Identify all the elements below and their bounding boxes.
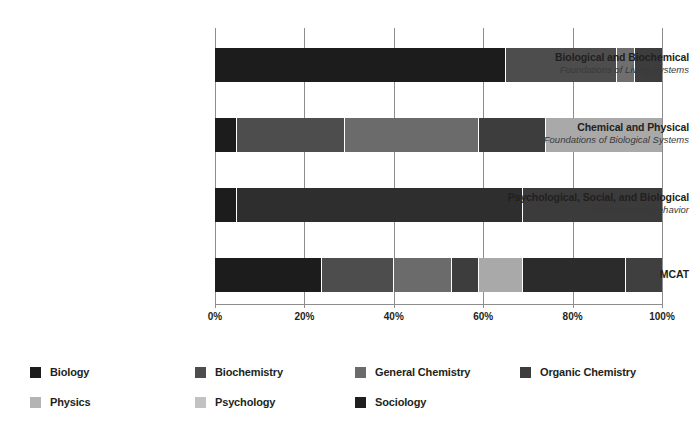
legend-item-psychology[interactable]: Psychology — [195, 396, 275, 408]
bar-segment-biochemistry — [322, 258, 394, 292]
x-tick-label-80: 80% — [563, 311, 583, 322]
category-label-primary: Chemical and Physical — [494, 121, 689, 134]
tick-mark-0 — [215, 304, 216, 308]
category-label: Biological and BiochemicalFoundations of… — [494, 51, 699, 75]
legend-swatch-icon — [355, 397, 366, 408]
x-tick-label-20: 20% — [294, 311, 314, 322]
x-axis-line — [215, 304, 663, 305]
legend-item-physics[interactable]: Physics — [30, 396, 91, 408]
legend-item-sociology[interactable]: Sociology — [355, 396, 426, 408]
legend-swatch-icon — [195, 397, 206, 408]
legend-label: Biology — [50, 366, 89, 378]
bar-segment-organic-chemistry — [452, 258, 479, 292]
legend-label: Physics — [50, 396, 91, 408]
tick-mark-100 — [662, 304, 663, 308]
bar-segment-psychology — [237, 188, 523, 222]
stacked-bar-chart: Biological and BiochemicalFoundations of… — [0, 0, 699, 424]
tick-mark-20 — [304, 304, 305, 308]
category-label-primary: MCAT — [494, 268, 689, 281]
legend-item-biochemistry[interactable]: Biochemistry — [195, 366, 283, 378]
category-label-primary: Psychological, Social, and Biological — [494, 191, 689, 204]
legend-swatch-icon — [30, 367, 41, 378]
legend-label: General Chemistry — [375, 366, 470, 378]
bar-segment-biology — [215, 258, 322, 292]
bar-segment-biochemistry — [237, 118, 344, 152]
bar-segment-general-chemistry — [345, 118, 479, 152]
category-label: Psychological, Social, and BiologicalFou… — [494, 191, 699, 215]
legend-swatch-icon — [30, 397, 41, 408]
legend-item-biology[interactable]: Biology — [30, 366, 89, 378]
category-label-secondary: Foundations of Biological Systems — [494, 134, 689, 146]
legend-swatch-icon — [355, 367, 366, 378]
x-tick-label-40: 40% — [384, 311, 404, 322]
chart-legend: BiologyBiochemistryGeneral ChemistryOrga… — [0, 360, 699, 420]
x-tick-label-60: 60% — [473, 311, 493, 322]
legend-item-general-chemistry[interactable]: General Chemistry — [355, 366, 470, 378]
legend-label: Organic Chemistry — [540, 366, 636, 378]
bar-segment-general-chemistry — [394, 258, 452, 292]
tick-mark-60 — [483, 304, 484, 308]
category-label-secondary: Foundations of Living Systems — [494, 64, 689, 76]
legend-swatch-icon — [520, 367, 531, 378]
legend-item-organic-chemistry[interactable]: Organic Chemistry — [520, 366, 636, 378]
tick-mark-80 — [573, 304, 574, 308]
bar-segment-biology — [215, 118, 237, 152]
category-label: MCAT — [494, 268, 699, 281]
bar-segment-biology — [215, 188, 237, 222]
legend-label: Sociology — [375, 396, 426, 408]
legend-label: Psychology — [215, 396, 275, 408]
category-label-secondary: Foundations of Behavior — [494, 204, 689, 216]
tick-mark-40 — [394, 304, 395, 308]
category-label-primary: Biological and Biochemical — [494, 51, 689, 64]
category-label: Chemical and PhysicalFoundations of Biol… — [494, 121, 699, 145]
x-tick-label-0: 0% — [208, 311, 222, 322]
legend-label: Biochemistry — [215, 366, 283, 378]
bar-segment-biology — [215, 48, 506, 82]
legend-swatch-icon — [195, 367, 206, 378]
x-tick-label-100: 100% — [649, 311, 675, 322]
